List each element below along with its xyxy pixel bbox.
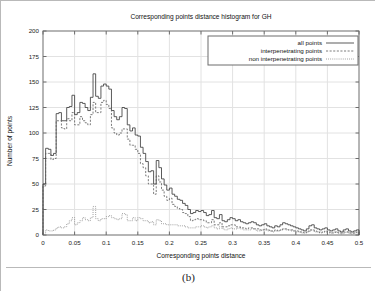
- y-tick-label: 125: [29, 104, 40, 111]
- y-tick-label: 0: [36, 231, 40, 238]
- x-tick-label: 0.15: [132, 239, 145, 246]
- y-tick-label: 175: [29, 53, 40, 60]
- y-tick-label: 50: [32, 180, 39, 187]
- caption-divider: [6, 267, 371, 268]
- x-tick-label: 0.5: [355, 239, 364, 246]
- y-tick-label: 200: [29, 27, 40, 34]
- chart-title: Corresponding points distance histogram …: [130, 13, 271, 21]
- figure-caption: (b): [1, 271, 375, 283]
- x-axis-title: Corresponding points distance: [156, 252, 245, 260]
- legend-label: interpenetrating points: [261, 47, 322, 54]
- x-tick-label: 0.2: [165, 239, 174, 246]
- y-tick-label: 75: [32, 155, 39, 162]
- x-tick-label: 0.05: [69, 239, 82, 246]
- x-tick-label: 0.45: [321, 239, 334, 246]
- x-tick-label: 0.35: [258, 239, 271, 246]
- legend-label: all points: [298, 39, 322, 46]
- y-tick-label: 25: [32, 206, 39, 213]
- y-tick-label: 100: [29, 129, 40, 136]
- chart-plot-area: Corresponding points distance histogram …: [1, 5, 375, 263]
- figure-container: Corresponding points distance histogram …: [0, 0, 375, 291]
- x-tick-label: 0.4: [291, 239, 300, 246]
- chart-legend: all pointsinterpenetrating pointsnon int…: [208, 36, 358, 65]
- x-tick-label: 0.3: [228, 239, 237, 246]
- y-axis-title: Number of points: [6, 115, 14, 166]
- x-tick-label: 0: [41, 239, 45, 246]
- x-tick-label: 0.25: [195, 239, 208, 246]
- y-tick-label: 150: [29, 78, 40, 85]
- x-tick-label: 0.1: [102, 239, 111, 246]
- histogram-chart: Corresponding points distance histogram …: [1, 5, 375, 263]
- legend-label: non interpenetrating points: [249, 55, 322, 62]
